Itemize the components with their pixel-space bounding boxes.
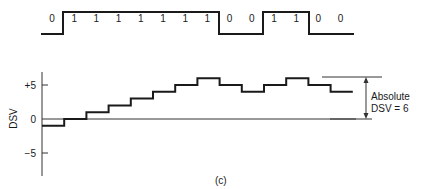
bit-waveform: [41, 12, 354, 34]
bit-label: 1: [269, 13, 279, 24]
bit-label: 1: [291, 13, 301, 24]
annotation-line2: DSV = 6: [371, 104, 409, 114]
bit-label: 0: [225, 13, 235, 24]
bit-label: 1: [158, 13, 168, 24]
bit-label: 1: [202, 13, 212, 24]
bit-label: 1: [136, 13, 146, 24]
diagram-canvas: [0, 0, 423, 189]
annotation-line1: Absolute: [371, 92, 410, 102]
bit-label: 1: [180, 13, 190, 24]
bit-label: 0: [313, 13, 323, 24]
figure-caption: (c): [215, 176, 227, 186]
tick-minus5: −5: [14, 148, 36, 159]
y-axis-label: DSV: [8, 104, 19, 134]
bit-label: 1: [91, 13, 101, 24]
bit-label: 1: [114, 13, 124, 24]
bit-label: 1: [69, 13, 79, 24]
bit-label: 0: [336, 13, 346, 24]
bit-label: 0: [47, 13, 57, 24]
bit-label: 0: [247, 13, 257, 24]
tick-plus5: +5: [14, 80, 36, 91]
